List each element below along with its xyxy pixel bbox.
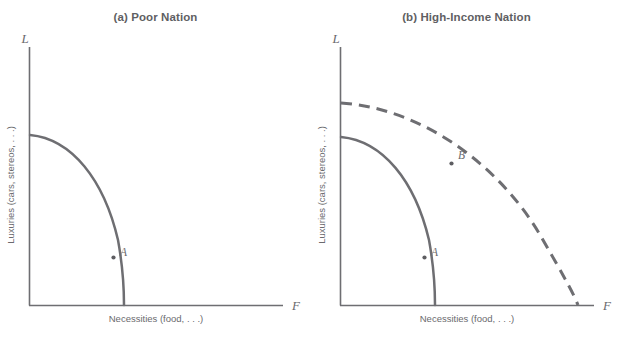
plot-poor-nation: L F A Necessities (food, . . .) Luxuries…: [0, 0, 311, 343]
ppf-figure: (a) Poor Nation L F A Necessities (food,…: [0, 0, 622, 343]
y-axis-symbol: L: [20, 31, 28, 46]
x-axis-caption: Necessities (food, . . .): [109, 313, 204, 324]
point-a-marker: [111, 255, 115, 259]
point-a-marker: [422, 255, 426, 259]
x-axis-caption: Necessities (food, . . .): [420, 313, 515, 324]
point-b-label: B: [458, 149, 465, 161]
ppf-dashed-curve: [341, 103, 578, 305]
ppf-solid-curve: [341, 137, 435, 305]
point-b-marker: [449, 161, 453, 165]
point-a-label: A: [119, 246, 128, 258]
panel-poor-nation: (a) Poor Nation L F A Necessities (food,…: [0, 0, 311, 343]
y-axis-symbol: L: [331, 31, 339, 46]
ppf-solid-curve: [30, 135, 124, 305]
panel-high-income-nation: (b) High-Income Nation L F B A Necessiti…: [311, 0, 622, 343]
point-a-label: A: [430, 246, 439, 258]
y-axis-caption: Luxuries (cars, stereos, . . .): [316, 126, 327, 244]
x-axis-symbol: F: [291, 298, 301, 313]
x-axis-symbol: F: [602, 298, 612, 313]
y-axis-caption: Luxuries (cars, stereos, . . .): [5, 126, 16, 244]
plot-high-income-nation: L F B A Necessities (food, . . .) Luxuri…: [311, 0, 622, 343]
